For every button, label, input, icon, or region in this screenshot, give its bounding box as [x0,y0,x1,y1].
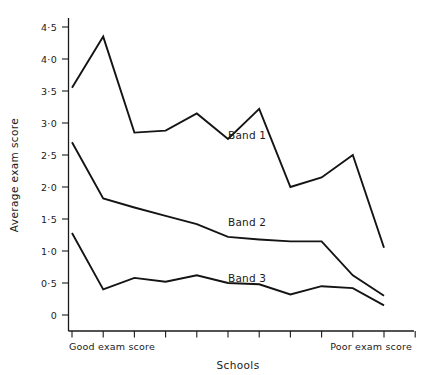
y-tick-label-2-5: 2·5 [41,150,57,161]
y-tick-label-4-0: 4·0 [41,54,57,65]
x-axis-title: Schools [216,359,259,371]
series-line-band-3 [72,233,384,305]
x-axis-ticks [72,331,415,338]
y-axis-title: Average exam score [8,118,20,232]
y-tick-label-1-0: 1·0 [41,246,57,257]
y-tick-label-1-5: 1·5 [41,214,57,225]
chart-container: 4·5 4·0 3·5 3·0 2·5 2·0 1·5 1·0 0·5 0 Ba… [0,0,422,375]
y-tick-label-2-0: 2·0 [41,182,57,193]
y-tick-label-4-5: 4·5 [41,22,57,33]
y-tick-label-3-5: 3·5 [41,86,57,97]
x-axis-left-end-label: Good exam score [69,341,155,352]
series-label-band-2: Band 2 [228,216,266,228]
line-chart: 4·5 4·0 3·5 3·0 2·5 2·0 1·5 1·0 0·5 0 Ba… [0,0,422,375]
y-tick-label-0-5: 0·5 [41,278,57,289]
x-axis-right-end-label: Poor exam score [330,341,412,352]
series-label-band-1: Band 1 [228,129,266,141]
y-tick-label-3-0: 3·0 [41,118,57,129]
series-label-band-3: Band 3 [228,272,266,284]
y-tick-label-0: 0 [51,310,57,321]
y-axis-ticks [62,27,69,315]
